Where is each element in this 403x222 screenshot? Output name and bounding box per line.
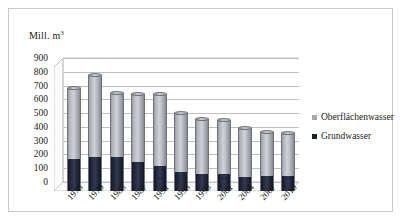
chart-container: Mill. m3 0100200300400500600700800900 19… bbox=[8, 8, 393, 212]
bar-segment-oberflaechenwasser[interactable] bbox=[67, 88, 81, 159]
bar-segment-oberflaechenwasser[interactable] bbox=[281, 133, 295, 176]
bar-cap bbox=[67, 86, 81, 90]
bar-segment-oberflaechenwasser[interactable] bbox=[153, 94, 167, 166]
bar-1983[interactable] bbox=[110, 93, 124, 191]
legend-label: Grundwasser bbox=[321, 131, 371, 141]
legend-item[interactable]: Oberflächenwasser bbox=[312, 112, 403, 122]
bar-cap bbox=[131, 92, 145, 96]
bar-2007[interactable] bbox=[260, 132, 274, 191]
bar-1995[interactable] bbox=[174, 113, 188, 191]
bar-1979[interactable] bbox=[88, 75, 102, 191]
y-axis-tick-label: 800 bbox=[14, 67, 48, 77]
bar-segment-oberflaechenwasser[interactable] bbox=[88, 75, 102, 156]
y-axis-tick-label: 900 bbox=[14, 53, 48, 63]
bar-segment-oberflaechenwasser[interactable] bbox=[131, 94, 145, 162]
y-axis-tick-label: 100 bbox=[14, 163, 48, 173]
bar-cap bbox=[260, 130, 274, 134]
y-axis-unit-text: Mill. m bbox=[29, 30, 60, 41]
bar-1998[interactable] bbox=[195, 119, 209, 191]
bar-1975[interactable] bbox=[67, 88, 81, 191]
y-axis-tick-label: 400 bbox=[14, 122, 48, 132]
legend-swatch-icon bbox=[312, 134, 317, 139]
bar-segment-oberflaechenwasser[interactable] bbox=[195, 119, 209, 174]
bar-cap bbox=[217, 118, 231, 122]
y-axis-tick-label: 600 bbox=[14, 94, 48, 104]
legend-swatch-icon bbox=[312, 115, 317, 120]
y-axis-tick-label: 700 bbox=[14, 81, 48, 91]
y-axis-tick-label: 0 bbox=[14, 177, 48, 187]
y-axis-unit-exponent: 3 bbox=[60, 29, 63, 36]
bar-segment-oberflaechenwasser[interactable] bbox=[174, 113, 188, 172]
chart-legend: OberflächenwasserGrundwasser bbox=[312, 112, 403, 150]
bar-2010[interactable] bbox=[281, 133, 295, 191]
y-axis-tick-label: 300 bbox=[14, 136, 48, 146]
legend-label: Oberflächenwasser bbox=[321, 112, 394, 122]
y-axis-tick-label: 200 bbox=[14, 149, 48, 159]
plot-area: 0100200300400500600700800900 19751979198… bbox=[54, 49, 299, 191]
bar-segment-oberflaechenwasser[interactable] bbox=[217, 120, 231, 174]
legend-item[interactable]: Grundwasser bbox=[312, 131, 403, 141]
bar-segment-oberflaechenwasser[interactable] bbox=[238, 128, 252, 176]
bar-1987[interactable] bbox=[131, 94, 145, 191]
y-axis-tick-label: 500 bbox=[14, 108, 48, 118]
bar-segment-oberflaechenwasser[interactable] bbox=[260, 132, 274, 176]
bar-series-group bbox=[63, 58, 299, 191]
bar-2004[interactable] bbox=[238, 128, 252, 191]
bar-segment-oberflaechenwasser[interactable] bbox=[110, 93, 124, 157]
y-axis-unit-title: Mill. m3 bbox=[29, 29, 64, 41]
bar-1991[interactable] bbox=[153, 94, 167, 191]
bar-cap bbox=[153, 92, 167, 96]
bar-2001[interactable] bbox=[217, 120, 231, 191]
